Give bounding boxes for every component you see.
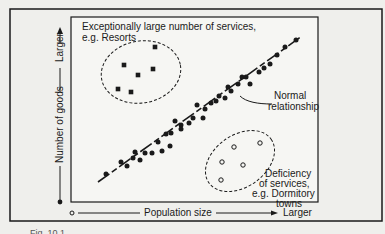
- normal-point: [125, 164, 130, 169]
- x-axis-end-label: Larger: [283, 207, 312, 218]
- normal-point: [191, 116, 196, 121]
- normal-label-line1: Normal: [274, 90, 306, 101]
- normal-point: [248, 82, 253, 87]
- resort-point: [151, 67, 156, 72]
- resort-point: [116, 87, 121, 92]
- normal-point: [179, 123, 184, 128]
- normal-point: [214, 99, 219, 104]
- normal-point: [209, 101, 214, 106]
- normal-point: [262, 66, 267, 71]
- x-axis-origin-icon: [70, 211, 74, 215]
- normal-point: [244, 75, 249, 80]
- normal-point: [131, 156, 136, 161]
- resort-point: [122, 63, 127, 68]
- normal-point: [203, 107, 208, 112]
- normal-point: [187, 121, 192, 126]
- normal-point: [229, 89, 234, 94]
- y-axis-origin-dot-icon: [58, 200, 63, 205]
- normal-point: [138, 158, 143, 163]
- normal-point: [223, 96, 228, 101]
- resorts-annotation-line1: Exceptionally large number of services,: [82, 21, 256, 32]
- normal-point: [226, 85, 231, 90]
- normal-point: [150, 151, 155, 156]
- figure-caption: Fig. 10.1: [30, 228, 65, 234]
- normal-point: [104, 172, 109, 177]
- x-axis-arrowhead-icon: [271, 211, 278, 216]
- normal-point: [168, 144, 173, 149]
- normal-point: [173, 119, 178, 124]
- normal-point: [257, 70, 262, 75]
- normal-point: [164, 132, 169, 137]
- normal-point: [143, 151, 148, 156]
- resorts-annotation-line2: e.g. Resorts: [82, 32, 136, 43]
- resort-point: [129, 90, 134, 95]
- resort-point: [153, 45, 158, 50]
- normal-point: [275, 53, 280, 58]
- normal-point: [119, 160, 124, 165]
- y-axis-label: Number of goods: [54, 86, 65, 163]
- normal-point: [160, 149, 165, 154]
- normal-point: [236, 82, 241, 87]
- normal-point: [201, 116, 206, 121]
- normal-point: [268, 62, 273, 67]
- normal-point: [133, 150, 138, 155]
- normal-point: [169, 131, 174, 136]
- normal-point: [195, 103, 200, 108]
- y-axis-end-label: Larger: [54, 33, 65, 62]
- normal-point: [217, 94, 222, 99]
- normal-point: [156, 140, 161, 145]
- normal-label-line2: relationship: [268, 101, 319, 112]
- normal-point: [294, 38, 299, 43]
- resort-point: [136, 73, 141, 78]
- normal-point: [283, 45, 288, 50]
- x-axis-label: Population size: [144, 207, 212, 218]
